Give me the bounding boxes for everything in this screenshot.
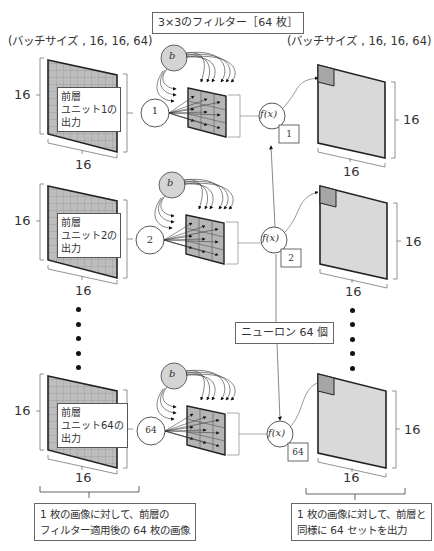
neuron-count-box: ニューロン 64 個 bbox=[235, 322, 334, 344]
cnn-diagram bbox=[0, 0, 434, 551]
row2-height-dim: 16 bbox=[14, 213, 31, 228]
ellipsis-dot bbox=[76, 351, 81, 356]
row2-out-height-dim: 16 bbox=[405, 234, 422, 249]
row1-bias-label: b bbox=[169, 50, 175, 61]
right-note-line-2: 同様に 64 セットを出力 bbox=[297, 522, 426, 538]
row2-out-width-dim: 16 bbox=[345, 284, 362, 299]
ellipsis-dot bbox=[350, 308, 355, 313]
row2-activation-label: f(x) bbox=[262, 232, 279, 243]
left-note-line-1: 1 枚の画像に対して、前層の bbox=[40, 506, 190, 522]
ellipsis-dot bbox=[76, 322, 81, 327]
row1-activation-label: f(x) bbox=[260, 108, 277, 119]
row1-out-width-dim: 16 bbox=[343, 164, 360, 179]
neuron-link-down bbox=[277, 343, 280, 420]
ellipsis-dot bbox=[350, 322, 355, 327]
ellipsis-dot bbox=[76, 307, 81, 312]
row1-width-dim: 16 bbox=[75, 157, 92, 172]
row64-bias-label: b bbox=[169, 368, 175, 379]
row1-unit-label: 1 bbox=[148, 105, 162, 116]
ellipsis-dot bbox=[350, 337, 355, 342]
row64-unit-label: 64 bbox=[142, 425, 160, 435]
row64-activation-label: f(x) bbox=[268, 427, 285, 438]
ellipsis-dot bbox=[76, 336, 81, 341]
left-note-line-2: フィルター適用後の 64 枚の画像 bbox=[40, 522, 190, 538]
row64-width-dim: 16 bbox=[75, 470, 92, 485]
row1-input-label: 前層 ユニット1の 出力 bbox=[57, 87, 121, 132]
ellipsis-dot bbox=[350, 366, 355, 371]
row64-height-dim: 16 bbox=[14, 403, 31, 418]
right-footer-note: 1 枚の画像に対して、前層と 同様に 64 セットを出力 bbox=[291, 503, 432, 541]
row64-out-height-dim: 16 bbox=[404, 422, 421, 437]
row2-input-label: 前層 ユニット2の 出力 bbox=[57, 213, 121, 258]
row64-input-label: 前層 ユニット64の 出力 bbox=[57, 403, 128, 448]
row1-height-dim: 16 bbox=[14, 87, 31, 102]
left-footer-note: 1 枚の画像に対して、前層の フィルター適用後の 64 枚の画像 bbox=[34, 503, 196, 541]
row1-neuron-index: 1 bbox=[279, 129, 299, 139]
ellipsis-dot bbox=[76, 365, 81, 370]
row2-width-dim: 16 bbox=[75, 283, 92, 298]
row64-neuron-index: 64 bbox=[288, 447, 308, 457]
ellipsis-dot bbox=[350, 351, 355, 356]
row2-unit-label: 2 bbox=[143, 234, 157, 245]
row2-bias-label: b bbox=[167, 177, 173, 188]
row1-out-height-dim: 16 bbox=[403, 112, 420, 127]
row64-out-width-dim: 16 bbox=[343, 470, 360, 485]
row2-neuron-index: 2 bbox=[281, 253, 301, 263]
right-note-line-1: 1 枚の画像に対して、前層と bbox=[297, 506, 426, 522]
